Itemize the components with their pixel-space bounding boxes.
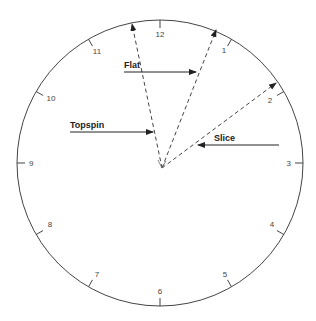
- clock-number-5: 5: [223, 270, 228, 279]
- topspin-path: [132, 24, 162, 168]
- clock-number-10: 10: [47, 94, 56, 103]
- clock-number-6: 6: [158, 287, 163, 296]
- clock-number-8: 8: [48, 220, 53, 229]
- clock-number-7: 7: [95, 270, 100, 279]
- clock-number-4: 4: [270, 220, 275, 229]
- clock-diagram: 12 1 2 3 4 5 6 7 8 9 10 11 Flat Topspin …: [0, 0, 316, 321]
- clock-number-2: 2: [268, 96, 273, 105]
- clock-number-12: 12: [156, 30, 165, 39]
- dashed-paths: [132, 24, 276, 168]
- clock-number-1: 1: [222, 46, 227, 55]
- flat-path: [162, 30, 216, 168]
- clock-number-9: 9: [29, 159, 34, 168]
- label-arrows: [70, 72, 279, 145]
- slice-label: Slice: [214, 133, 235, 143]
- clock-number-3: 3: [287, 159, 292, 168]
- topspin-label: Topspin: [70, 120, 104, 130]
- clock-face-circle: [17, 20, 303, 306]
- flat-label: Flat: [124, 60, 140, 70]
- clock-number-11: 11: [93, 47, 102, 56]
- clock-ticks: [17, 20, 303, 306]
